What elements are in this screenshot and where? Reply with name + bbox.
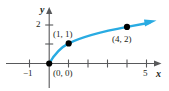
point-1-1 — [66, 40, 72, 46]
curve-arrowhead — [144, 20, 157, 27]
point-label-1-1: (1, 1) — [53, 30, 73, 39]
point-4-2 — [124, 24, 130, 30]
sqrt-curve — [49, 20, 156, 64]
y-axis — [45, 7, 53, 88]
x-axis-label: x — [156, 69, 161, 79]
point-0-0 — [46, 60, 52, 66]
y-axis-label: y — [40, 5, 44, 15]
x-axis — [6, 60, 162, 68]
y-axis-arrowhead — [46, 7, 52, 14]
point-label-0-0: (0, 0) — [53, 69, 73, 78]
x-axis-arrowhead — [154, 60, 162, 66]
x-tick-label-5: 5 — [143, 69, 148, 78]
graph-figure: y x 2 −1 5 (1, 1) (0, 0) (4, 2) — [0, 0, 169, 91]
point-label-4-2: (4, 2) — [112, 35, 132, 44]
x-tick-label-neg1: −1 — [23, 69, 33, 78]
y-tick-label-2: 2 — [36, 20, 41, 29]
